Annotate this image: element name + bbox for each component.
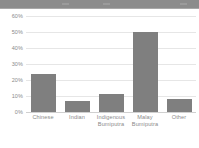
x-axis-tick-label-line: Indian	[60, 114, 94, 121]
x-axis-tick-label-line: Other	[162, 114, 196, 121]
x-axis-tick-label-line: Bumiputra	[94, 121, 128, 128]
bar[interactable]	[65, 101, 90, 112]
toolbar-mark-icon-3	[180, 3, 187, 5]
y-axis-tick-label: 0%	[15, 109, 23, 115]
y-axis-tick-label: 40%	[12, 45, 23, 51]
bar[interactable]	[133, 32, 158, 112]
toolbar-mark-icon-1	[62, 3, 69, 5]
toolbar-mark-icon-2	[103, 3, 110, 5]
bar-series	[26, 16, 196, 112]
window-toolbar[interactable]	[0, 0, 199, 9]
chart-screenshot: 60%50%40%30%20%10%0% ChineseIndianIndige…	[0, 0, 199, 148]
bar[interactable]	[31, 74, 56, 112]
bar-chart: 60%50%40%30%20%10%0% ChineseIndianIndige…	[0, 9, 199, 148]
bar[interactable]	[99, 94, 124, 112]
x-axis-tick-labels: ChineseIndianIndigenousBumiputraMalayBum…	[26, 114, 196, 128]
x-axis-tick-label: Chinese	[26, 114, 60, 128]
bar-slot	[26, 16, 60, 112]
x-axis-tick-label-line: Chinese	[26, 114, 60, 121]
y-axis-tick-label: 30%	[12, 61, 23, 67]
y-axis-tick-label: 20%	[12, 77, 23, 83]
bar-slot	[94, 16, 128, 112]
x-axis-tick-label: Other	[162, 114, 196, 128]
bar-slot	[60, 16, 94, 112]
x-axis-tick-label: MalayBumiputra	[128, 114, 162, 128]
y-axis-tick-label: 10%	[12, 93, 23, 99]
plot-area: 60%50%40%30%20%10%0%	[26, 16, 196, 112]
y-axis-tick-label: 50%	[12, 29, 23, 35]
x-axis-tick-label-line: Bumiputra	[128, 121, 162, 128]
x-axis-tick-label-line: Malay	[128, 114, 162, 121]
x-axis-tick-label: IndigenousBumiputra	[94, 114, 128, 128]
x-axis-tick-label-line: Indigenous	[94, 114, 128, 121]
x-axis-line	[26, 112, 196, 113]
x-axis-tick-label: Indian	[60, 114, 94, 128]
bar[interactable]	[167, 99, 192, 112]
bar-slot	[162, 16, 196, 112]
bar-slot	[128, 16, 162, 112]
y-axis-tick-label: 60%	[12, 13, 23, 19]
